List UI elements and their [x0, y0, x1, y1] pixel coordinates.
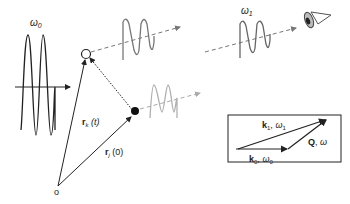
particle-k	[82, 50, 91, 59]
origin-label: o	[54, 187, 59, 197]
detector-icon	[303, 11, 331, 29]
incident-wave-curve	[21, 35, 55, 135]
q-label: Q, ω	[308, 137, 327, 147]
scattered-wave-j	[140, 85, 200, 118]
scattered-wave-k	[91, 19, 180, 60]
particle-j	[131, 107, 139, 115]
omega1-label: ω1	[241, 5, 253, 17]
vector-rk	[58, 60, 85, 186]
displacement-vector	[90, 58, 134, 112]
incident-wave: ω0	[15, 17, 70, 135]
detected-wave: ω1	[205, 5, 296, 58]
omega0-label: ω0	[30, 17, 42, 29]
scattering-diagram: ω0 o rk (t) rj (0) ω1 k1, ω1	[0, 0, 350, 204]
inset-box: k1, ω1 Q, ω k0, ω0	[228, 115, 341, 165]
rj-label: rj (0)	[105, 147, 123, 158]
rk-label: rk (t)	[82, 117, 100, 128]
